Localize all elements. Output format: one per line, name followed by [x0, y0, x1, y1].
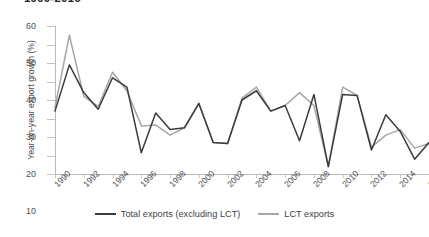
legend-label: LCT exports: [284, 209, 334, 219]
plot-area: 6050403020100-10-20 19901992199419961998…: [55, 26, 429, 174]
y-tick: 20: [47, 100, 55, 101]
y-tick: -10: [47, 156, 55, 157]
legend-swatch: [258, 213, 279, 215]
y-tick: 40: [47, 63, 55, 64]
chart-title: 1990-2016: [24, 0, 81, 4]
y-tick: 30: [47, 82, 55, 83]
legend-item[interactable]: Total exports (excluding LCT): [95, 209, 241, 219]
y-tick: 10: [47, 119, 55, 120]
y-tick: 50: [47, 45, 55, 46]
legend-swatch: [95, 213, 116, 215]
legend-item[interactable]: LCT exports: [258, 209, 334, 219]
y-tick-label: 40: [26, 95, 36, 105]
chart-figure: 1990-2016 Year-on-year export growth (%)…: [0, 0, 429, 237]
y-tick-label: 60: [26, 21, 36, 31]
legend-label: Total exports (excluding LCT): [121, 209, 241, 219]
y-tick: -20: [47, 174, 55, 175]
series-line: [55, 65, 429, 167]
series-lines: [55, 26, 429, 175]
y-tick-label: 50: [26, 58, 36, 68]
y-tick-label: 30: [26, 132, 36, 142]
y-tick: 60: [47, 26, 55, 27]
y-tick-label: 20: [26, 169, 36, 179]
y-tick: 0: [47, 137, 55, 138]
chart-legend: Total exports (excluding LCT)LCT exports: [0, 209, 429, 219]
